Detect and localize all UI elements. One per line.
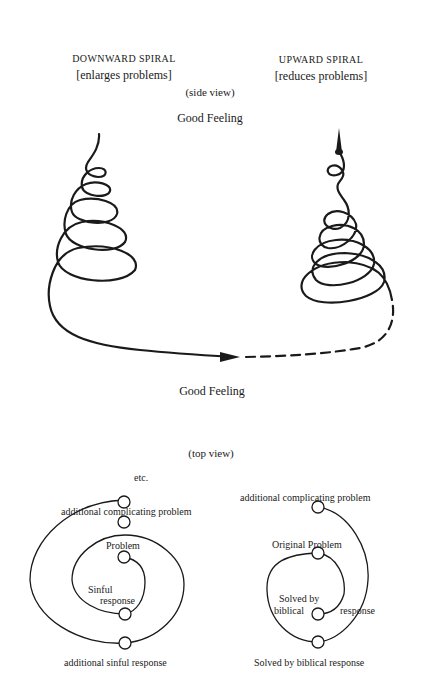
biblical-spiral-top-view [267, 507, 368, 642]
good-feeling-bottom: Good Feeling [179, 385, 245, 397]
upward-spiral-title: UPWARD SPIRAL [279, 55, 363, 65]
dashed-connector [246, 300, 393, 357]
label-original-problem: Original Problem [272, 540, 342, 550]
node-solved-inner [312, 608, 324, 620]
node-sinful-response [119, 608, 131, 620]
label-biblical: biblical [274, 606, 304, 616]
side-view-caption: (side view) [185, 87, 234, 98]
label-etc: etc. [134, 473, 148, 483]
node-additional-problem [118, 516, 130, 528]
downward-spiral-subtitle: [enlarges problems] [76, 69, 171, 81]
sinful-spiral-top-view [30, 500, 184, 643]
label-problem: Problem [106, 541, 140, 551]
node-solved-outer [312, 636, 324, 648]
label-sinful-response: response [100, 596, 135, 606]
top-view-caption: (top view) [188, 448, 234, 459]
label-sinful: Sinful [88, 585, 112, 595]
label-additional-complicating-problem-left: additional complicating problem [61, 507, 192, 517]
arrow-head-right-icon [220, 352, 240, 362]
downward-spiral-title: DOWNWARD SPIRAL [72, 54, 176, 64]
label-additional-complicating-problem-right: additional complicating problem [240, 493, 371, 503]
upward-spiral-subtitle: [reduces problems] [275, 70, 367, 82]
label-solved-by: Solved by [279, 594, 319, 604]
good-feeling-top: Good Feeling [177, 112, 243, 124]
label-additional-sinful-response: additional sinful response [64, 658, 167, 668]
node-additional-sinful [119, 637, 131, 649]
downward-spiral [49, 134, 232, 357]
label-solved-by-biblical-response: Solved by biblical response [254, 658, 364, 668]
arrow-head-up-icon [336, 128, 342, 152]
node-problem [118, 551, 130, 563]
diagram-canvas [0, 0, 425, 693]
upward-spiral [301, 151, 392, 303]
label-response: response [340, 606, 375, 616]
